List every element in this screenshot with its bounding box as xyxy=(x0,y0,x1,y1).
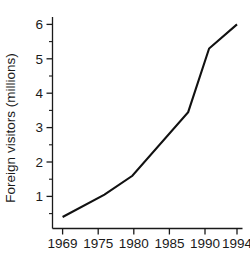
x-tick-label: 1985 xyxy=(154,236,184,251)
data-line-foreign-visitors xyxy=(63,24,237,217)
x-axis-ticks xyxy=(63,229,237,235)
y-tick-label: 3 xyxy=(35,120,43,135)
x-tick-label: 1994 xyxy=(222,236,250,251)
x-tick-label: 1975 xyxy=(83,236,113,251)
y-axis-tick-labels: 6 5 4 3 2 1 xyxy=(35,17,43,204)
plot-area: 6 5 4 3 2 1 1969 1975 1980 1985 1990 199… xyxy=(0,0,250,256)
x-tick-label: 1969 xyxy=(48,236,78,251)
y-tick-label: 5 xyxy=(35,52,43,67)
y-tick-label: 1 xyxy=(35,189,43,204)
y-tick-label: 2 xyxy=(35,155,43,170)
line-chart: Foreign visitors (millions) 6 5 4 xyxy=(0,0,250,256)
y-tick-label: 4 xyxy=(35,86,43,101)
x-tick-label: 1990 xyxy=(190,236,220,251)
x-axis-tick-labels: 1969 1975 1980 1985 1990 1994 xyxy=(48,236,250,251)
x-tick-label: 1980 xyxy=(119,236,149,251)
y-tick-label: 6 xyxy=(35,17,43,32)
